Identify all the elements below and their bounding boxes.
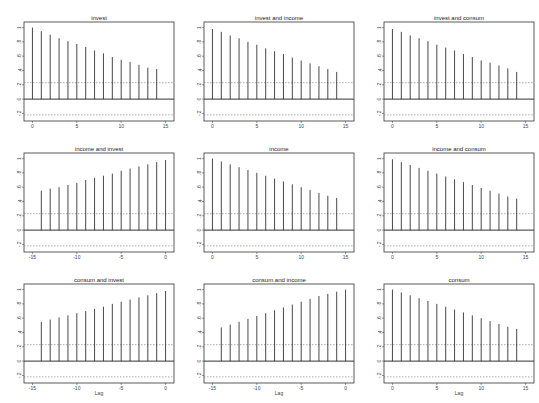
y-tick-label: .8 (377, 40, 383, 44)
y-tick-label: .2 (17, 345, 23, 349)
x-tick-label: 5 (255, 123, 258, 129)
x-tick-label: 15 (523, 123, 529, 129)
y-tick-label: .8 (17, 302, 23, 306)
y-tick-label: 0 (377, 98, 383, 101)
y-tick-label: .6 (197, 316, 203, 320)
y-tick-label: .2 (197, 83, 203, 87)
y-tick-label: .2 (377, 214, 383, 218)
y-tick-label: .2 (377, 83, 383, 87)
plot-frame (384, 22, 534, 121)
correlogram-panel: invest1.8.6.4.20-.2051015 (0, 0, 179, 134)
y-tick-label: 0 (377, 360, 383, 363)
y-tick-label: 0 (197, 360, 203, 363)
y-tick-label: 1 (377, 26, 383, 29)
y-tick-label: -.2 (197, 110, 203, 116)
x-tick-label: -10 (73, 254, 80, 260)
x-tick-label: 0 (164, 385, 167, 391)
y-tick-label: 1 (197, 157, 203, 160)
x-tick-label: 5 (435, 123, 438, 129)
x-tick-label: -15 (29, 385, 36, 391)
y-tick-label: 1 (197, 26, 203, 29)
y-tick-label: -.2 (17, 110, 23, 116)
x-tick-label: 15 (163, 123, 169, 129)
y-tick-label: 0 (377, 229, 383, 232)
panel-title: consum and income (252, 277, 306, 283)
y-tick-label: -.2 (197, 372, 203, 378)
correlogram-panel: income and invest1.8.6.4.20-.2-15-10-50 (0, 131, 179, 265)
x-tick-label: 15 (523, 385, 529, 391)
y-tick-label: .2 (197, 345, 203, 349)
x-tick-label: 15 (343, 123, 349, 129)
y-tick-label: .6 (197, 54, 203, 58)
x-tick-label: 5 (255, 254, 258, 260)
y-tick-label: .6 (197, 185, 203, 189)
x-axis-label: Lag (275, 390, 284, 396)
y-tick-label: .8 (377, 302, 383, 306)
y-tick-label: .6 (17, 185, 23, 189)
x-tick-label: 0 (391, 123, 394, 129)
x-tick-label: -5 (119, 385, 124, 391)
y-tick-label: -.2 (17, 241, 23, 247)
x-tick-label: 15 (343, 254, 349, 260)
y-tick-label: .4 (377, 330, 383, 334)
x-tick-label: 5 (435, 254, 438, 260)
x-tick-label: 0 (211, 123, 214, 129)
x-tick-label: 0 (344, 385, 347, 391)
y-tick-label: -.2 (197, 241, 203, 247)
plot-frame (204, 22, 354, 121)
x-tick-label: 10 (478, 254, 484, 260)
panel-title: invest and income (255, 15, 304, 21)
y-tick-label: 0 (17, 360, 23, 363)
y-tick-label: 1 (17, 288, 23, 291)
y-tick-label: 1 (17, 26, 23, 29)
x-tick-label: 0 (211, 254, 214, 260)
correlogram-panel: consum1.8.6.4.20-.2051015Lag (360, 262, 539, 396)
y-tick-label: -.2 (377, 372, 383, 378)
x-tick-label: -5 (299, 385, 304, 391)
y-tick-label: .6 (17, 316, 23, 320)
y-tick-label: .8 (17, 40, 23, 44)
plot-frame (24, 284, 174, 383)
x-tick-label: 5 (75, 123, 78, 129)
x-tick-label: 0 (31, 123, 34, 129)
y-tick-label: .8 (17, 171, 23, 175)
x-tick-label: -15 (29, 254, 36, 260)
correlogram-panel: invest and consum1.8.6.4.20-.2051015 (360, 0, 539, 134)
y-tick-label: .4 (377, 68, 383, 72)
x-tick-label: 10 (478, 385, 484, 391)
plot-frame (384, 284, 534, 383)
x-axis-label: Lag (455, 390, 464, 396)
panel-title: income and invest (75, 146, 124, 152)
y-tick-label: .6 (17, 54, 23, 58)
y-tick-label: .8 (197, 171, 203, 175)
x-tick-label: 10 (478, 123, 484, 129)
x-tick-label: -10 (253, 385, 260, 391)
y-tick-label: .4 (377, 199, 383, 203)
plot-frame (384, 153, 534, 252)
plot-frame (204, 153, 354, 252)
y-tick-label: -.2 (377, 241, 383, 247)
plot-frame (24, 22, 174, 121)
correlogram-panel: consum and invest1.8.6.4.20-.2-15-10-50L… (0, 262, 179, 396)
x-tick-label: -5 (119, 254, 124, 260)
panel-title: consum and invest (74, 277, 124, 283)
y-tick-label: .8 (197, 40, 203, 44)
correlogram-panel: income1.8.6.4.20-.2051015 (180, 131, 359, 265)
y-tick-label: -.2 (377, 110, 383, 116)
y-tick-label: 1 (377, 288, 383, 291)
panel-title: income (269, 146, 289, 152)
x-tick-label: 10 (298, 254, 304, 260)
y-tick-label: -.2 (17, 372, 23, 378)
correlogram-panel: invest and income1.8.6.4.20-.2051015 (180, 0, 359, 134)
y-tick-label: .6 (377, 185, 383, 189)
y-tick-label: 0 (197, 98, 203, 101)
x-tick-label: 5 (435, 385, 438, 391)
y-tick-label: .6 (377, 54, 383, 58)
x-axis-label: Lag (95, 390, 104, 396)
y-tick-label: 0 (17, 98, 23, 101)
x-tick-label: 0 (391, 385, 394, 391)
x-tick-label: 15 (523, 254, 529, 260)
panel-title: income and consum (432, 146, 486, 152)
y-tick-label: .4 (17, 199, 23, 203)
plot-frame (24, 153, 174, 252)
